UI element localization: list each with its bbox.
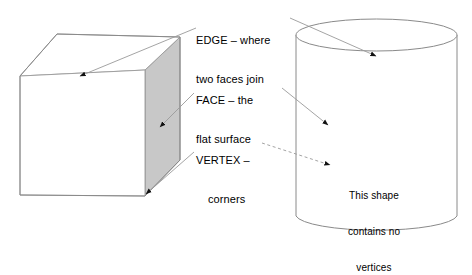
label-edge-line1: EDGE – where: [196, 34, 271, 47]
label-face-line1: FACE – the: [196, 94, 253, 107]
label-vertex: VERTEX – corners: [196, 128, 250, 232]
cylinder-top-ellipse: [296, 19, 457, 51]
cube-front-face: [20, 70, 145, 196]
label-vertex-line2: corners: [196, 193, 250, 206]
label-no-vertices-line2: contains no: [336, 226, 412, 238]
label-no-vertices-line3: vertices: [336, 262, 412, 274]
label-no-vertices: This shape contains no vertices: [336, 166, 412, 275]
label-no-vertices-line1: This shape: [336, 190, 412, 202]
label-vertex-line1: VERTEX –: [196, 154, 250, 167]
